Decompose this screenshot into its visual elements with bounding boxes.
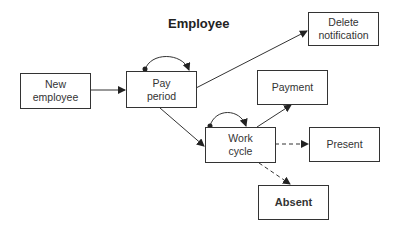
node-present: Present <box>309 127 380 162</box>
node-delete-notification: Delete notification <box>308 12 379 46</box>
edge-work-to-absent <box>259 163 290 184</box>
edge-work-self-loop <box>210 113 246 127</box>
edge-pay-to-work <box>160 108 204 146</box>
edge-work-to-payment <box>257 105 291 127</box>
node-work-cycle: Work cycle <box>205 127 276 163</box>
diagram-title: Employee <box>168 16 229 31</box>
node-absent: Absent <box>258 185 329 220</box>
edge-pay-self-loop <box>145 57 189 71</box>
node-payment: Payment <box>257 70 328 105</box>
node-new-employee: New employee <box>20 73 91 109</box>
node-pay-period: Pay period <box>126 71 197 108</box>
